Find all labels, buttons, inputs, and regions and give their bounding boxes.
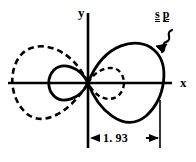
sp-orbital-diagram: y x s p 1. 93 [0, 0, 196, 162]
x-axis-label: x [180, 76, 187, 89]
dimension-arrow-left-icon [90, 134, 100, 142]
y-axis-label: y [78, 6, 85, 19]
dimension-arrow-right-icon [149, 134, 159, 142]
orbital-label-s: s [155, 8, 160, 22]
dimension-value-label: 1. 93 [103, 131, 128, 146]
squiggly-arrow-head-icon [156, 44, 167, 52]
orbital-label-p: p [163, 8, 170, 22]
orbital-label: s p [155, 8, 169, 22]
diagram-canvas [0, 0, 196, 162]
